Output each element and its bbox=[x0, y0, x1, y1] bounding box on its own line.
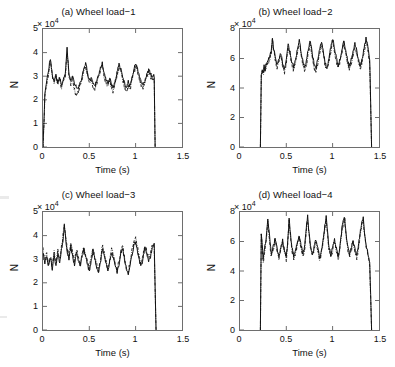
xtick-b-0: 0 bbox=[227, 151, 251, 161]
panel-title-b: (b) Wheel load−2 bbox=[197, 6, 394, 17]
plot-area-b bbox=[239, 28, 380, 148]
x-axis-label-a: Time (s) bbox=[42, 164, 183, 175]
y-axis-label-d: N bbox=[206, 259, 217, 277]
plot-svg-d bbox=[240, 212, 379, 330]
xtick-a-0: 0 bbox=[30, 151, 54, 161]
ytick-b-2: 4 bbox=[221, 83, 235, 93]
xtick-d-0: 0 bbox=[227, 334, 251, 344]
ytick-b-1: 2 bbox=[221, 112, 235, 122]
y-ticks-a bbox=[43, 53, 182, 147]
ytick-b-4: 8 bbox=[221, 23, 235, 33]
trace-measured-a bbox=[43, 47, 155, 147]
ytick-d-1: 2 bbox=[221, 295, 235, 305]
plot-area-c bbox=[42, 211, 183, 331]
exponent-power-c: 4 bbox=[55, 200, 59, 207]
x-axis-label-d: Time (s) bbox=[239, 347, 380, 358]
xtick-b-3: 1.5 bbox=[368, 151, 392, 161]
ytick-a-5: 5 bbox=[24, 23, 38, 33]
exponent-power-b: 4 bbox=[252, 17, 256, 24]
scan-artifact-left bbox=[0, 196, 9, 199]
trace-simulated-d bbox=[260, 218, 371, 330]
trace-simulated-a bbox=[43, 53, 155, 147]
ytick-b-3: 6 bbox=[221, 53, 235, 63]
ytick-d-4: 8 bbox=[221, 206, 235, 216]
panel-wheel-load-2: (b) Wheel load−2 × 104 N bbox=[197, 0, 394, 183]
trace-simulated-b bbox=[260, 38, 371, 147]
trace-measured-b bbox=[260, 37, 371, 147]
ytick-a-4: 4 bbox=[24, 47, 38, 57]
y-axis-label-b: N bbox=[206, 76, 217, 94]
xtick-b-2: 1 bbox=[320, 151, 344, 161]
plot-svg-b bbox=[240, 29, 379, 147]
xtick-d-1: 0.5 bbox=[274, 334, 298, 344]
ytick-a-1: 1 bbox=[24, 118, 38, 128]
y-axis-label-c: N bbox=[9, 259, 20, 277]
panel-title-a: (a) Wheel load−1 bbox=[0, 6, 197, 17]
ytick-c-4: 4 bbox=[24, 230, 38, 240]
xtick-b-1: 0.5 bbox=[274, 151, 298, 161]
xtick-d-3: 1.5 bbox=[368, 334, 392, 344]
xtick-d-2: 1 bbox=[320, 334, 344, 344]
ytick-c-3: 3 bbox=[24, 254, 38, 264]
ytick-d-3: 6 bbox=[221, 236, 235, 246]
y-axis-label-a: N bbox=[9, 76, 20, 94]
plot-area-a bbox=[42, 28, 183, 148]
plot-svg-c bbox=[43, 212, 182, 330]
exponent-power-a: 4 bbox=[55, 17, 59, 24]
xtick-c-0: 0 bbox=[30, 334, 54, 344]
trace-measured-d bbox=[260, 215, 371, 330]
panel-wheel-load-3: (c) Wheel load−3 × 104 N bbox=[0, 183, 197, 366]
ytick-d-2: 4 bbox=[221, 266, 235, 276]
panel-wheel-load-1: (a) Wheel load−1 × 104 N bbox=[0, 0, 197, 183]
xtick-a-1: 0.5 bbox=[77, 151, 101, 161]
panel-title-d: (d) Wheel load−4 bbox=[197, 189, 394, 200]
trace-measured-c bbox=[43, 225, 156, 330]
figure-wheel-load-plots: (a) Wheel load−1 × 104 N bbox=[0, 0, 395, 367]
plot-area-d bbox=[239, 211, 380, 331]
xtick-a-2: 1 bbox=[123, 151, 147, 161]
x-axis-label-c: Time (s) bbox=[42, 347, 183, 358]
ytick-a-2: 2 bbox=[24, 94, 38, 104]
x-ticks-d bbox=[286, 212, 332, 330]
scan-artifact-bottom bbox=[0, 316, 7, 318]
panel-title-c: (c) Wheel load−3 bbox=[0, 189, 197, 200]
x-axis-label-b: Time (s) bbox=[239, 164, 380, 175]
exponent-power-d: 4 bbox=[252, 200, 256, 207]
ytick-c-2: 2 bbox=[24, 277, 38, 287]
plot-svg-a bbox=[43, 29, 182, 147]
ytick-a-3: 3 bbox=[24, 71, 38, 81]
ytick-c-5: 5 bbox=[24, 206, 38, 216]
xtick-a-3: 1.5 bbox=[171, 151, 195, 161]
xtick-c-3: 1.5 bbox=[171, 334, 195, 344]
panel-wheel-load-4: (d) Wheel load−4 × 104 N bbox=[197, 183, 394, 366]
xtick-c-2: 1 bbox=[123, 334, 147, 344]
trace-simulated-c bbox=[43, 224, 156, 331]
ytick-c-1: 1 bbox=[24, 301, 38, 311]
y-ticks-c bbox=[43, 236, 182, 330]
xtick-c-1: 0.5 bbox=[77, 334, 101, 344]
